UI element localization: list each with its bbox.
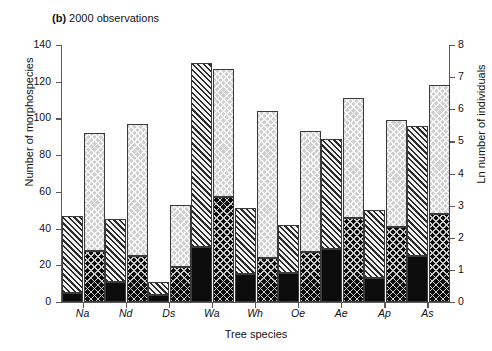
bar-segment-lower [386,227,407,302]
y-axis-right-title: Ln number of individuals [475,49,487,199]
y-tick-right [450,45,455,46]
bar-segment-lower [62,293,83,302]
bar-ds-individuals [170,205,191,302]
y-tick-left [56,192,61,193]
bar-segment-lower [321,249,342,302]
x-tick-label-as: As [407,307,447,319]
y-tick-left [56,118,61,119]
bar-segment-upper [386,120,407,226]
bar-na-individuals [84,133,105,302]
bar-segment-lower [84,251,105,302]
bar-segment-upper [407,126,428,256]
bar-segment-upper [62,216,83,293]
bar-segment-upper [364,210,385,278]
bar-segment-upper [191,63,212,247]
bar-segment-lower [364,278,385,302]
bar-segment-upper [321,139,342,249]
y-tick-right [450,302,455,303]
bar-nd-morphospecies [105,219,126,302]
figure-panel-b: (b) 2000 observations 020406080100120140… [0,0,492,351]
bar-oe-individuals [300,131,321,302]
bar-segment-lower [429,214,450,302]
y-tick-right [450,109,455,110]
bar-segment-upper [213,69,234,198]
bar-oe-morphospecies [278,225,299,302]
x-tick-label-nd: Nd [106,307,146,319]
bar-segment-lower [213,197,234,302]
bar-wh-morphospecies [235,208,256,302]
bar-segment-upper [170,205,191,267]
y-tick-left [56,229,61,230]
x-tick-label-wh: Wh [235,307,275,319]
bar-segment-upper [257,111,278,258]
panel-title: (b) 2000 observations [52,12,159,24]
y-tick-label-left: 20 [17,258,51,270]
y-tick-left [56,155,61,156]
y-tick-left [56,45,61,46]
bar-segment-upper [127,124,148,256]
y-tick-label-right: 0 [458,295,478,307]
bar-segment-upper [429,85,450,214]
y-tick-right [450,238,455,239]
x-axis-title: Tree species [146,328,366,340]
bar-segment-lower [257,258,278,302]
bar-ae-morphospecies [321,139,342,302]
bar-segment-lower [278,273,299,302]
bar-na-morphospecies [62,216,83,302]
y-tick-label-right: 1 [458,263,478,275]
x-tick-label-oe: Oe [278,307,318,319]
panel-caption: 2000 observations [69,12,159,24]
plot-area [62,45,450,302]
y-tick-label-right: 3 [458,199,478,211]
bar-segment-lower [343,218,364,302]
y-tick-label-right: 2 [458,231,478,243]
bar-as-individuals [429,85,450,302]
y-tick-right [450,206,455,207]
y-tick-right [450,174,455,175]
y-tick-left [56,265,61,266]
y-tick-left [56,82,61,83]
bar-segment-lower [105,282,126,302]
y-tick-left [56,302,61,303]
bar-ds-morphospecies [148,282,169,302]
bar-segment-lower [300,252,321,302]
bar-wa-individuals [213,69,234,302]
bar-nd-individuals [127,124,148,302]
x-tick-label-ds: Ds [149,307,189,319]
y-tick-label-left: 40 [17,222,51,234]
bar-segment-upper [84,133,105,250]
bar-segment-lower [191,247,212,302]
bar-segment-lower [170,267,191,302]
bar-as-morphospecies [407,126,428,302]
bar-ap-individuals [386,120,407,302]
y-tick-right [450,77,455,78]
x-tick-label-ae: Ae [321,307,361,319]
bar-wa-morphospecies [191,63,212,302]
bar-segment-upper [278,225,299,273]
x-tick-label-na: Na [63,307,103,319]
x-tick-label-ap: Ap [364,307,404,319]
y-axis-left-title: Number of morphospecies [23,47,35,197]
bar-segment-lower [127,256,148,302]
bar-segment-upper [105,219,126,281]
y-tick-right [450,141,455,142]
bar-ae-individuals [343,98,364,302]
x-tick-label-wa: Wa [192,307,232,319]
bar-segment-upper [343,98,364,217]
bar-segment-upper [235,208,256,274]
y-tick-label-left: 0 [17,295,51,307]
y-tick-right [450,270,455,271]
bar-segment-lower [148,295,169,302]
bar-segment-lower [235,274,256,302]
bar-segment-lower [407,256,428,302]
bar-wh-individuals [257,111,278,302]
panel-letter: (b) [52,12,66,24]
bar-ap-morphospecies [364,210,385,302]
bar-segment-upper [148,282,169,295]
bar-segment-upper [300,131,321,252]
